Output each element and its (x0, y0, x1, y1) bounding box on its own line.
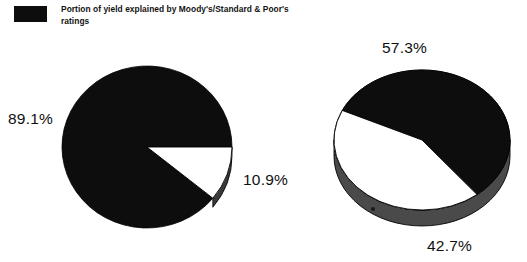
left-pie-label-explained: 89.1% (8, 110, 53, 128)
right-pie-label-explained: 57.3% (382, 39, 427, 57)
left-pie-label-remainder: 10.9% (243, 171, 288, 189)
right-pie-label-remainder: 42.7% (427, 237, 472, 255)
right-pie-chart (0, 0, 527, 262)
right-pie-rim-marker (371, 207, 375, 211)
pie-chart-figure: Portion of yield explained by Moody's/St… (0, 0, 527, 262)
